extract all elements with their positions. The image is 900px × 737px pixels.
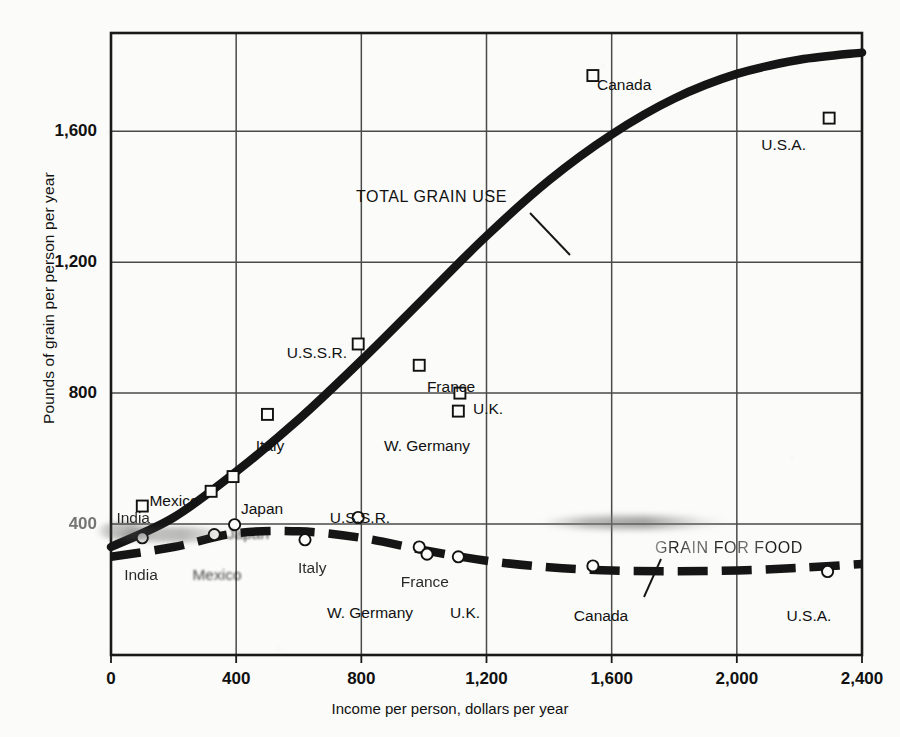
point-label-total-uk: U.K. bbox=[473, 400, 503, 418]
grain-for-food-leader-line bbox=[644, 559, 661, 597]
marker-total-ussr bbox=[353, 339, 364, 350]
total-grain-use-leader-line bbox=[530, 213, 570, 255]
y-tick-1600: 1,600 bbox=[0, 121, 97, 141]
x-tick-1200: 1,200 bbox=[465, 669, 508, 689]
point-label-food-uk: U.K. bbox=[450, 604, 480, 622]
point-label-total-ussr: U.S.S.R. bbox=[287, 344, 347, 362]
grain-for-food-label: GRAIN FOR FOOD bbox=[655, 539, 803, 557]
point-label-total-wgermany: W. Germany bbox=[384, 437, 470, 455]
marker-total-usa bbox=[824, 113, 835, 124]
point-label-food-ussr: U.S.S.R. bbox=[330, 509, 390, 527]
x-tick-1600: 1,600 bbox=[590, 669, 633, 689]
marker-total-wgermany bbox=[453, 406, 464, 417]
point-label-food-japan: Japan bbox=[227, 525, 269, 543]
marker-food-usa bbox=[822, 566, 833, 577]
plot-area bbox=[0, 0, 900, 737]
y-tick-800: 800 bbox=[0, 383, 97, 403]
total-grain-use-label: TOTAL GRAIN USE bbox=[356, 188, 507, 206]
point-label-food-mexico: Mexico bbox=[192, 566, 241, 584]
x-axis-title: Income per person, dollars per year bbox=[0, 700, 900, 717]
marker-food-canada bbox=[587, 560, 598, 571]
point-label-food-italy: Italy bbox=[298, 559, 326, 577]
y-tick-1200: 1,200 bbox=[0, 252, 97, 272]
marker-food-mexico bbox=[209, 529, 220, 540]
x-tick-800: 800 bbox=[347, 669, 375, 689]
point-label-total-mexico: Mexico bbox=[149, 492, 198, 510]
point-label-total-india: India bbox=[116, 509, 150, 527]
y-tick-400: 400 bbox=[0, 514, 97, 534]
marker-total-france bbox=[414, 360, 425, 371]
marker-total-japan bbox=[228, 471, 239, 482]
total-grain-use-markers bbox=[137, 70, 835, 511]
point-label-total-italy: Italy bbox=[256, 437, 284, 455]
marker-total-mexico bbox=[206, 486, 217, 497]
marker-total-italy bbox=[262, 409, 273, 420]
point-label-food-canada: Canada bbox=[574, 607, 628, 625]
point-label-food-france: France bbox=[401, 573, 449, 591]
marker-food-italy bbox=[299, 534, 310, 545]
chart-canvas: Pounds of grain per person per year Inco… bbox=[0, 0, 900, 737]
x-tick-2400: 2,400 bbox=[841, 669, 884, 689]
point-label-food-usa: U.S.A. bbox=[787, 607, 832, 625]
x-tick-2000: 2,000 bbox=[716, 669, 759, 689]
point-label-total-france: France bbox=[427, 378, 475, 396]
point-label-food-india: India bbox=[124, 566, 158, 584]
x-tick-0: 0 bbox=[106, 669, 115, 689]
marker-food-wgermany bbox=[421, 549, 432, 560]
marker-food-uk bbox=[453, 551, 464, 562]
point-label-total-japan: Japan bbox=[241, 500, 283, 518]
point-label-total-usa: U.S.A. bbox=[761, 136, 806, 154]
x-tick-400: 400 bbox=[222, 669, 250, 689]
point-label-total-canada: Canada bbox=[597, 76, 651, 94]
marker-food-india bbox=[137, 532, 148, 543]
point-label-food-wgermany: W. Germany bbox=[327, 604, 413, 622]
